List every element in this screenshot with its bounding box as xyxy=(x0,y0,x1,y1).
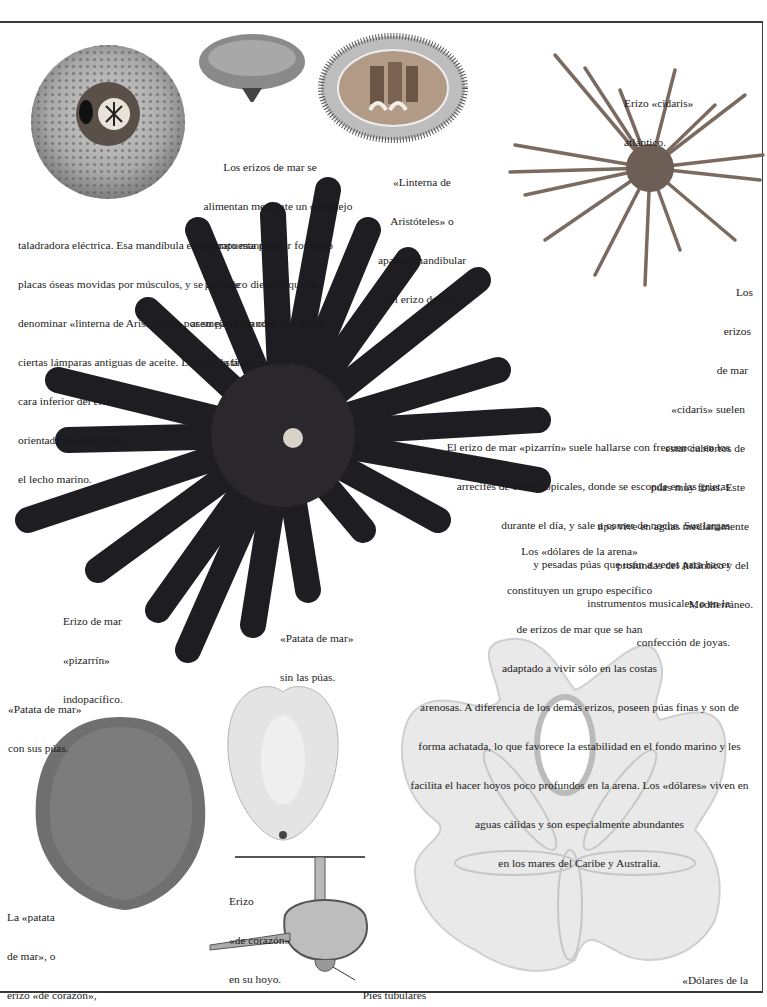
sand-dollar-caption-line: forma achatada, lo que favorece la estab… xyxy=(392,740,767,753)
burrow-label-line: Erizo xyxy=(229,895,290,908)
sand-dollar-caption-line: constituyen un grupo específico xyxy=(392,584,767,597)
sea-potato-spiny-label-line: «Patata de mar» xyxy=(8,703,81,716)
feeding-caption-line: orientada siempre hacia xyxy=(18,434,274,447)
pizarrin-caption-line: El erizo de mar «pizarrín» suele hallars… xyxy=(430,441,753,454)
pizarrin-label-line: Erizo de mar xyxy=(63,615,123,628)
burrow-label-line: en su hoyo. xyxy=(229,973,290,986)
cidaris-label: Erizo «cidaris» atlántico. xyxy=(624,71,693,162)
cidaris-caption-line: Los xyxy=(560,286,753,299)
sand-dollar-caption-line: aguas cálidas y son especialmente abunda… xyxy=(392,818,767,831)
tube-feet-label: Pies tubulares xyxy=(357,976,426,1002)
cidaris-label-line: Erizo «cidaris» xyxy=(624,97,693,110)
cidaris-caption-line: erizos xyxy=(560,325,753,338)
urchin-side-view-image xyxy=(196,32,308,102)
pizarrin-label-line: «pizarrín» xyxy=(63,654,123,667)
sea-potato-bare-label-line: «Patata de mar» xyxy=(280,632,353,645)
sand-dollar-caption-line: en los mares del Caribe y Australia. xyxy=(392,857,767,870)
cidaris-caption-line: de mar xyxy=(560,364,753,377)
tube-feet-label-text: Pies tubulares xyxy=(363,989,427,1001)
arrowhead-label-line: «Dólares de la xyxy=(620,974,748,987)
sea-potato-bare-label-line: sin las púas. xyxy=(280,671,353,684)
lantern-caption-line: aparato mandibular xyxy=(362,254,482,267)
burrow-label-line: «de corazón» xyxy=(229,934,290,947)
aristotles-lantern-image xyxy=(318,30,468,145)
sand-dollar-caption-line: adaptado a vivir sólo en las costas xyxy=(392,662,767,675)
pizarrin-caption-line: arrecifes de coral tropicales, donde se … xyxy=(430,480,753,493)
arrowhead-sand-dollar-label: «Dólares de la arena» de punta de flecha… xyxy=(620,948,748,1007)
lantern-caption-line: Aristóteles» o xyxy=(362,215,482,228)
sea-potato-bare-label: «Patata de mar» sin las púas. xyxy=(280,606,353,697)
feeding-caption-line: alimentan mediante un complejo xyxy=(155,200,385,213)
feeding-caption-line: placas óseas movidas por músculos, y se … xyxy=(18,278,274,291)
lantern-caption-line: del erizo de mar. xyxy=(362,293,482,306)
heart-urchin-caption-line: La «patata xyxy=(7,911,225,924)
sand-dollar-caption-line: Los «dólares de la arena» xyxy=(392,545,767,558)
sand-dollar-caption: Los «dólares de la arena» constituyen un… xyxy=(392,519,767,883)
burrow-label: Erizo «de corazón» en su hoyo. xyxy=(229,869,290,999)
lantern-caption-line: «Linterna de xyxy=(362,176,482,189)
feeding-caption-continued: taladradora eléctrica. Esa mandíbula est… xyxy=(18,213,274,499)
sand-dollar-caption-line: facilita el hacer hoyos poco profundos e… xyxy=(392,779,767,792)
lantern-caption: «Linterna de Aristóteles» o aparato mand… xyxy=(362,150,482,319)
feeding-caption-line: Los erizos de mar se xyxy=(155,161,385,174)
heart-urchin-caption-line: erizo «de corazón», xyxy=(7,989,225,1002)
feeding-caption-line: cara inferior del erizo, xyxy=(18,395,274,408)
feeding-caption-line: taladradora eléctrica. Esa mandíbula est… xyxy=(18,239,274,252)
cidaris-label-line: atlántico. xyxy=(624,136,693,149)
sea-potato-spiny-label-line: con sus púas. xyxy=(8,742,81,755)
heart-urchin-caption: La «patata de mar», o erizo «de corazón»… xyxy=(7,885,225,1007)
sand-dollar-caption-line: arenosas. A diferencia de los demás eriz… xyxy=(392,701,767,714)
feeding-caption-line: ciertas lámparas antiguas de aceite. La … xyxy=(18,356,274,369)
sea-potato-test-image xyxy=(226,680,341,845)
heart-urchin-caption-line: de mar», o xyxy=(7,950,225,963)
sand-dollar-caption-line: de erizos de mar que se han xyxy=(392,623,767,636)
feeding-caption-line: el lecho marino. xyxy=(18,473,274,486)
sea-potato-spiny-label: «Patata de mar» con sus púas. xyxy=(8,677,81,768)
feeding-caption-line: denominar «linterna de Aristóteles» por … xyxy=(18,317,274,330)
